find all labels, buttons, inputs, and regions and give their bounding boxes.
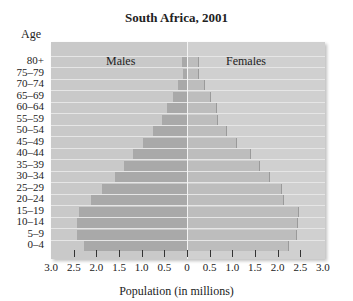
x-tick-label: 1.0 [135,261,149,273]
x-axis-title: Population (in millions) [0,284,353,299]
male-bar [173,92,187,102]
female-bar [188,115,218,125]
male-bar [133,149,187,159]
female-bar [188,207,299,217]
y-tick-label: 75–79 [17,66,45,78]
x-tick-label: 1.5 [248,261,262,273]
plot-area: Males Females [51,42,325,259]
male-bar [77,230,187,240]
male-bar [84,241,187,251]
y-tick-label: 35–39 [17,158,45,170]
female-bar [188,103,217,113]
y-tick-label: 45–49 [17,135,45,147]
x-tick-label: 0.5 [157,261,171,273]
female-bar [188,172,270,182]
x-tick-label: 0.5 [203,261,217,273]
x-tick [255,250,256,257]
female-bar [188,149,251,159]
y-tick-label: 70–74 [17,77,45,89]
y-tick-label: 5–9 [28,227,45,239]
y-tick-label: 65–69 [17,89,45,101]
y-tick-label: 50–54 [17,123,45,135]
chart-title: South Africa, 2001 [0,10,353,26]
x-tick-label: 2.5 [293,261,307,273]
x-tick [142,250,143,257]
female-bar [188,161,260,171]
center-axis-line [187,42,188,259]
x-tick [74,250,75,257]
x-tick [210,250,211,257]
x-tick-label: 2.0 [271,261,285,273]
x-tick-label: 1.0 [225,261,239,273]
y-tick-label: 30–34 [17,169,45,181]
x-tick [187,250,188,257]
male-bar [102,184,187,194]
y-tick-label: 80+ [27,54,44,66]
x-tick-label: 2.5 [67,261,81,273]
female-bar [188,195,284,205]
x-tick [119,250,120,257]
y-tick-label: 55–59 [17,112,45,124]
female-bar [188,184,282,194]
female-bar [188,92,211,102]
x-tick [300,250,301,257]
x-tick [96,250,97,257]
x-tick-label: 0 [184,261,190,273]
female-bar [188,218,298,228]
female-bar [188,241,289,251]
male-bar [162,115,187,125]
y-tick-label: 10–14 [17,215,45,227]
female-bar [188,69,199,79]
female-bar [188,230,297,240]
x-tick-label: 1.5 [112,261,126,273]
x-tick [278,250,279,257]
x-tick-label: 3.0 [316,261,330,273]
male-bar [153,126,187,136]
x-tick-label: 2.0 [90,261,104,273]
male-bar [79,207,187,217]
female-bar [188,80,205,90]
y-tick-label: 15–19 [17,204,45,216]
y-tick-label: 40–44 [17,146,45,158]
y-tick-label: 20–24 [17,192,45,204]
x-tick [232,250,233,257]
y-tick-label: 0–4 [28,238,45,250]
male-bar [178,80,187,90]
y-tick-label: 60–64 [17,100,45,112]
male-bar [143,138,187,148]
female-bar [188,126,227,136]
y-tick-label: 25–29 [17,181,45,193]
x-tick [164,250,165,257]
x-tick-label: 3.0 [44,261,58,273]
male-bar [167,103,187,113]
male-bar [91,195,187,205]
male-bar [124,161,187,171]
male-bar [115,172,187,182]
female-bar [188,138,237,148]
y-axis-title: Age [21,27,41,42]
male-bar [77,218,187,228]
female-bar [188,57,199,67]
